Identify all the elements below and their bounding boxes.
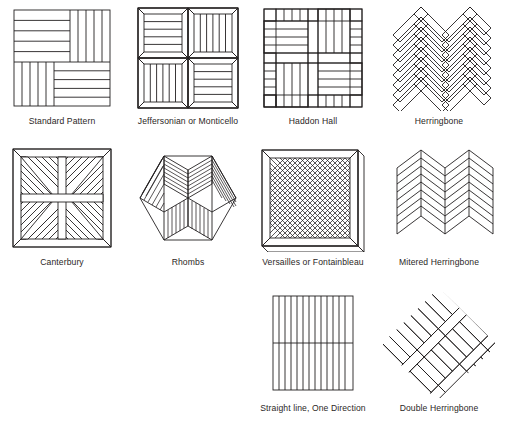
pattern-card-standard-pattern: Standard Pattern [0, 5, 125, 127]
pattern-label: Herringbone [415, 116, 463, 127]
pattern-card-herringbone: Herringbone [376, 5, 502, 127]
pattern-card-haddon-hall: Haddon Hall [250, 5, 376, 127]
pattern-label: Versailles or Fontainbleau [262, 257, 364, 268]
pattern-figure-canterbury [6, 146, 118, 252]
pattern-card-canterbury: Canterbury [0, 146, 125, 268]
pattern-card-jeffersonian-or-monticello: Jeffersonian or Monticello [125, 5, 251, 127]
pattern-figure-mitered-herringbone [383, 146, 495, 252]
pattern-card-straight-line-one-direction: Straight line, One Direction [250, 292, 376, 414]
pattern-figure-double-herringbone [383, 292, 495, 398]
pattern-card-versailles-or-fontainbleau: Versailles or Fontainbleau [250, 146, 376, 268]
pattern-label: Rhombs [172, 257, 205, 268]
pattern-figure-versailles-or-fontainbleau [257, 146, 369, 252]
pattern-card-mitered-herringbone: Mitered Herringbone [376, 146, 502, 268]
pattern-card-double-herringbone: Double Herringbone [376, 292, 502, 414]
pattern-figure-jeffersonian-or-monticello [132, 5, 244, 111]
pattern-label: Double Herringbone [400, 403, 479, 414]
pattern-figure-rhombs [132, 146, 244, 252]
pattern-card-rhombs: Rhombs [125, 146, 251, 268]
pattern-label: Mitered Herringbone [399, 257, 479, 268]
pattern-figure-herringbone [383, 5, 495, 111]
pattern-label: Straight line, One Direction [260, 403, 366, 414]
pattern-figure-standard-pattern [6, 5, 118, 111]
pattern-label: Standard Pattern [29, 116, 96, 127]
pattern-label: Haddon Hall [289, 116, 337, 127]
pattern-label: Canterbury [40, 257, 84, 268]
pattern-figure-haddon-hall [257, 5, 369, 111]
pattern-sheet: Standard Pattern [0, 0, 505, 422]
pattern-label: Jeffersonian or Monticello [138, 116, 238, 127]
pattern-figure-straight-line-one-direction [257, 292, 369, 398]
